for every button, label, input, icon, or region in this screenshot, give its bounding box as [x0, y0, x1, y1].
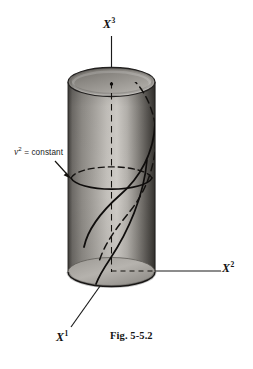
- figure-container: X3 X2 X1 v2 = constant Fig. 5-5.2: [0, 0, 253, 369]
- axis-label-x1: X1: [56, 331, 68, 343]
- figure-drawing: [0, 0, 253, 369]
- axis-top-point-dot: [110, 82, 113, 85]
- figure-caption: Fig. 5-5.2: [110, 330, 153, 341]
- axis-label-x2: X2: [222, 262, 234, 274]
- axis-label-x3: X3: [103, 18, 115, 30]
- v2-constant-label: v2 = constant: [14, 148, 63, 158]
